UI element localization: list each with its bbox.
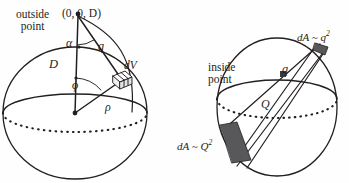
inside-point-label-line2: point [208, 73, 232, 85]
inside-point-label-line1: inside [208, 61, 235, 73]
phi-angle-label: ϕ [72, 79, 78, 92]
dA-near-label: dA ~ q2 [297, 30, 330, 43]
dA-far-label-text: dA ~ Q [177, 140, 208, 152]
alpha-vertex-dot [78, 46, 81, 49]
figure-root: outside point (0, 0, D) α q D dV ϕ ρ [0, 0, 349, 183]
D-distance-label: D [49, 58, 58, 71]
outside-point-label-line2: point [21, 20, 45, 32]
inside-point-sphere-diagram: inside point dA ~ q2 dA ~ Q2 q Q [175, 0, 349, 183]
outside-point-label-line1: outside [16, 8, 49, 20]
inside-point-label: inside point [208, 61, 235, 85]
outside-point-label: outside point [16, 8, 49, 32]
outside-point-sphere-diagram: outside point (0, 0, D) α q D dV ϕ ρ [0, 0, 175, 183]
apex-coordinates-label: (0, 0, D) [62, 7, 101, 19]
dV-volume-element-label: dV [124, 59, 137, 71]
Q-distance-label: Q [261, 98, 270, 111]
alpha-angle-label: α [66, 37, 72, 50]
q-distance-label: q [98, 40, 104, 53]
alpha-angle-arc [77, 40, 94, 45]
sphere-center-dot [73, 111, 78, 116]
q-distance-label: q [282, 63, 288, 76]
dA-far-label-exponent: 2 [208, 138, 212, 147]
dA-near-label-exponent: 2 [326, 29, 330, 38]
dA-far-label: dA ~ Q2 [177, 139, 212, 152]
dA-near-label-text: dA ~ q [297, 31, 326, 43]
rho-radius-label: ρ [105, 101, 111, 114]
inside-point-svg [175, 0, 349, 183]
